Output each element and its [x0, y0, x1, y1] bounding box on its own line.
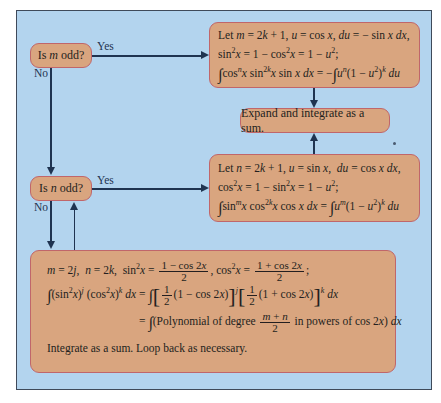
- dot-marker: [393, 142, 396, 145]
- m-odd-line3: ∫cosnx sin2kx sin x dx = −∫un(1 − u2)k d…: [218, 62, 411, 82]
- m-odd-line1: Let m = 2k + 1, u = cos x, du = − sin x …: [218, 28, 411, 43]
- arrowhead-icon: [201, 184, 209, 192]
- arrow-yes-m: [92, 55, 202, 57]
- label-yes-m: Yes: [97, 40, 114, 52]
- n-odd-line1: Let n = 2k + 1, u = sin x, du = cos x dx…: [218, 161, 411, 176]
- box-n-odd-substitution: Let n = 2k + 1, u = sin x, du = cos x dx…: [209, 154, 420, 222]
- arrow-no-m: [50, 68, 52, 168]
- arrowhead-icon: [70, 202, 78, 210]
- even-line1: m = 2j, n = 2k, sin2x = 1 − cos 2x2, cos…: [47, 259, 379, 281]
- arrow-loop-back: [74, 209, 76, 250]
- label-no-m: No: [34, 67, 48, 79]
- decision-m-odd: Is m odd?: [30, 43, 92, 68]
- n-odd-line2: cos2x = 1 − sin2x = 1 − u2;: [218, 176, 411, 195]
- even-line4: Integrate as a sum. Loop back as necessa…: [47, 341, 379, 356]
- even-line3: = ∫(Polynomial of degree m + n2 in power…: [47, 311, 379, 337]
- arrowhead-icon: [47, 167, 55, 175]
- box-m-odd-substitution: Let m = 2k + 1, u = cos x, du = − sin x …: [209, 22, 420, 88]
- arrow-yes-n: [92, 188, 202, 190]
- decision-n-odd: Is n odd?: [30, 176, 92, 201]
- arrow-to-expand-bottom: [313, 140, 315, 154]
- box-expand-integrate: Expand and integrate as a sum.: [240, 108, 390, 133]
- arrowhead-icon: [201, 51, 209, 59]
- n-odd-line3: ∫sinmx cos2kx cos x dx = ∫um(1 − u2)k du: [218, 195, 411, 215]
- label-no-n: No: [34, 201, 48, 213]
- m-odd-line2: sin2x = 1 − cos2x = 1 − u2;: [218, 43, 411, 62]
- box-both-even: m = 2j, n = 2k, sin2x = 1 − cos 2x2, cos…: [30, 250, 396, 373]
- arrowhead-icon: [47, 241, 55, 249]
- arrowhead-icon: [310, 133, 318, 141]
- decision-m-odd-label: Is m odd?: [38, 48, 85, 63]
- expand-label: Expand and integrate as a sum.: [241, 106, 389, 136]
- decision-n-odd-label: Is n odd?: [39, 181, 83, 196]
- arrow-no-n: [50, 201, 52, 241]
- even-line2: ∫(sin2x)j (cos2x)k dx = ∫[12(1 − cos 2x)…: [47, 283, 379, 311]
- label-yes-n: Yes: [97, 174, 114, 186]
